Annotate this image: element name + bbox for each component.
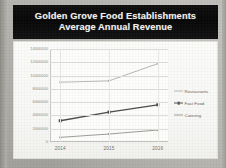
y-axis-tick-label: 14000000 xyxy=(30,47,48,52)
legend-item[interactable]: Fast Food xyxy=(174,98,218,108)
legend-item-label: Fast Food xyxy=(185,101,205,106)
y-axis-tick-label: 2000000 xyxy=(32,126,48,131)
y-axis-tick-label: 6000000 xyxy=(32,100,48,105)
slide-title-line-1: Golden Grove Food Establishments xyxy=(35,11,196,23)
x-axis-tick-label: 2014 xyxy=(55,146,66,151)
slide-photo-background: Golden Grove Food Establishments Average… xyxy=(0,0,226,168)
y-axis-tick-label: 12000000 xyxy=(30,60,48,65)
photo-left-edge xyxy=(0,0,7,168)
plot-area: 1400000012000000100000008000000600000040… xyxy=(50,49,168,142)
legend-item-label: Restaurants xyxy=(185,89,209,94)
x-axis-tick-label: 2016 xyxy=(152,146,163,151)
presentation-slide: Golden Grove Food Establishments Average… xyxy=(7,3,222,163)
slide-title-line-2: Average Annual Revenue xyxy=(59,22,173,34)
chart-legend: RestaurantsFast FoodCatering xyxy=(174,86,218,122)
x-axis-tick-label: 2015 xyxy=(104,146,115,151)
slide-title-band: Golden Grove Food Establishments Average… xyxy=(13,5,218,39)
y-axis-tick-label: 10000000 xyxy=(30,73,48,78)
y-axis-tick-label: 4000000 xyxy=(32,113,48,118)
gridline-vertical xyxy=(60,49,61,142)
gridline-vertical xyxy=(109,49,110,142)
legend-item-label: Catering xyxy=(185,113,202,118)
legend-swatch-icon xyxy=(174,88,183,95)
legend-item[interactable]: Restaurants xyxy=(174,86,218,96)
photo-right-edge xyxy=(222,0,226,168)
legend-item[interactable]: Catering xyxy=(174,110,218,120)
legend-swatch-icon xyxy=(174,112,183,119)
legend-swatch-icon xyxy=(174,100,183,107)
y-axis-tick-label: 0 xyxy=(46,140,48,145)
y-axis-tick-label: 8000000 xyxy=(32,87,48,92)
gridline-vertical xyxy=(158,49,159,142)
chart-container: 1400000012000000100000008000000600000040… xyxy=(13,41,218,159)
